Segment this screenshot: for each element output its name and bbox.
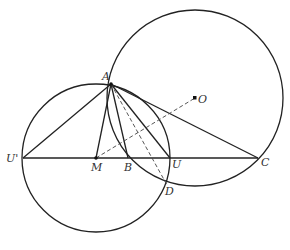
segment-a-c [111, 84, 258, 158]
point-o [193, 96, 197, 100]
label-a: A [101, 70, 110, 83]
point-m [94, 156, 98, 160]
label-c: C [261, 156, 270, 169]
segment-a-d-dashed [111, 84, 167, 185]
geometry-diagram: A O U' M B U C D [0, 0, 290, 250]
label-u-prime: U' [6, 152, 18, 165]
label-o: O [198, 93, 207, 106]
label-d: D [164, 185, 174, 198]
label-u: U [172, 158, 182, 171]
label-b: B [123, 161, 132, 174]
label-m: M [90, 161, 103, 174]
